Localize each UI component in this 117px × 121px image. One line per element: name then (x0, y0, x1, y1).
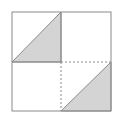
shaded-triangle-top-left (12, 12, 61, 62)
quadrant-diagram (0, 0, 117, 121)
shaded-triangle-bottom-right (61, 62, 111, 111)
